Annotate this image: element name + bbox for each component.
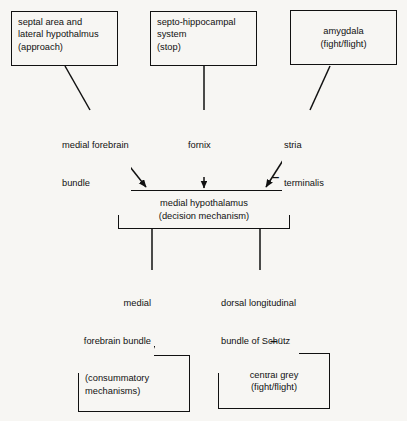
edge-label-line: medial (59, 297, 151, 310)
edge-label-line: medial forebrain (62, 139, 129, 152)
amygdala-box: amygdala (fight/flight) (290, 10, 397, 65)
edge-label-line: stria (284, 139, 324, 152)
edge-amygdala-to-medial-hypothalamus-upper (310, 66, 330, 110)
fornix-label: fornix (185, 114, 214, 177)
edge-label-line: bundle of Schütz (221, 335, 296, 348)
node-text-line: septo-hippocampal (157, 17, 236, 27)
node-text-line: (approach) (18, 42, 63, 52)
edge-label-line: fornix (188, 139, 211, 152)
node-text-line: septal area and (18, 17, 82, 27)
node-text-line: mechanisms) (85, 386, 140, 396)
minus-sign-central-grey: – (270, 336, 277, 345)
node-text-line: (decision mechanism) (159, 210, 249, 222)
node-text-line: system (157, 29, 186, 39)
stria-terminalis-label: stria terminalis (282, 114, 326, 215)
edge-septal-to-medial-hypothalamus-upper (65, 66, 90, 110)
medial-forebrain-bundle-lower-label: medial forebrain bundle (56, 272, 154, 373)
node-text-line: (stop) (157, 42, 181, 52)
node-text-line: (fight/flight) (251, 381, 297, 393)
node-text-line: lateral hypothalmus (18, 29, 99, 39)
edge-label-line: bundle (62, 177, 129, 190)
septal-area-lateral-hypothalamus-box: septal area and lateral hypothalmus (app… (11, 11, 118, 66)
dorsal-longitudinal-bundle-label: dorsal longitudinal bundle of Schütz (218, 272, 299, 373)
node-text-line: amygdala (323, 25, 363, 37)
medial-forebrain-bundle-upper-label: medial forebrain bundle (60, 114, 131, 215)
minus-sign-stria-terminalis: – (272, 172, 279, 181)
edge-label-line: dorsal longitudinal (221, 297, 296, 310)
pathway-diagram: septal area and lateral hypothalmus (app… (0, 0, 407, 421)
node-text-line: medial hypothalamus (160, 197, 248, 209)
node-text-line: (consummatory (85, 373, 149, 383)
edge-label-line: forebrain bundle (59, 335, 151, 348)
node-text-line: (fight/flight) (321, 38, 367, 50)
medial-hypothalamus-box: medial hypothalamus (decision mechanism) (118, 190, 290, 229)
edge-label-line: terminalis (284, 177, 324, 190)
septo-hippocampal-system-box: septo-hippocampal system (stop) (150, 11, 257, 66)
